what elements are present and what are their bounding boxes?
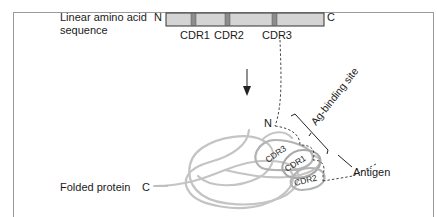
cdr2-segment bbox=[225, 14, 230, 26]
sequence-bar bbox=[166, 13, 324, 26]
ag-binding-site-label: Ag-binding site bbox=[308, 65, 360, 127]
cdr3-segment bbox=[272, 14, 277, 26]
fold-arrow bbox=[243, 69, 251, 96]
cdr2-loop: CDR2 bbox=[291, 168, 325, 190]
diagram-canvas: CDR3 CDR1 CDR2 Ag-binding site bbox=[0, 0, 437, 217]
cdr1-segment bbox=[191, 14, 196, 26]
antigen-pointer bbox=[338, 155, 352, 167]
